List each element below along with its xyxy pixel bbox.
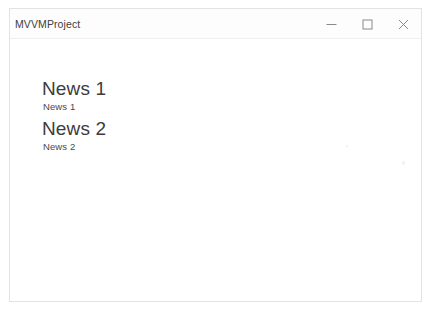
news-title: News 1: [42, 77, 411, 100]
maximize-button[interactable]: [349, 10, 385, 39]
list-item[interactable]: News 1 News 1: [42, 77, 411, 114]
scan-artifact: [402, 161, 405, 165]
list-item[interactable]: News 2 News 2: [42, 117, 411, 154]
minimize-button[interactable]: [313, 10, 349, 39]
close-icon: [397, 18, 410, 31]
close-button[interactable]: [385, 10, 421, 39]
news-description: News 2: [42, 140, 411, 154]
application-window: MVVMProject: [9, 8, 422, 302]
minimize-icon: [325, 18, 338, 31]
news-description: News 1: [42, 100, 411, 114]
client-area: News 1 News 1 News 2 News 2: [10, 39, 421, 301]
news-list: News 1 News 1 News 2 News 2: [42, 77, 411, 157]
window-title: MVVMProject: [15, 18, 80, 30]
news-title: News 2: [42, 117, 411, 140]
title-bar[interactable]: MVVMProject: [10, 9, 421, 39]
maximize-icon: [361, 18, 374, 31]
window-controls: [313, 9, 421, 39]
